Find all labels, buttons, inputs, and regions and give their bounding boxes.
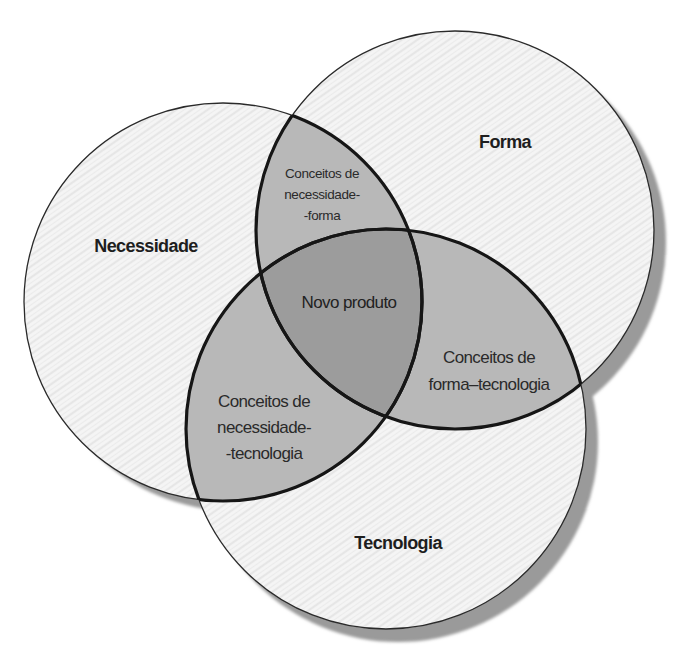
venn-diagram: Necessidade Forma Tecnologia Conceitos d… xyxy=(0,0,688,661)
label-necessidade-tecnologia: Conceitos de necessidade- -tecnologia xyxy=(217,392,311,463)
svg-text:Conceitos de: Conceitos de xyxy=(218,392,310,411)
svg-text:forma–tecnologia: forma–tecnologia xyxy=(429,375,551,394)
svg-text:-forma: -forma xyxy=(304,208,341,223)
label-forma: Forma xyxy=(479,132,533,152)
svg-text:-tecnologia: -tecnologia xyxy=(226,444,304,463)
svg-text:necessidade-: necessidade- xyxy=(284,187,360,202)
label-tecnologia: Tecnologia xyxy=(354,533,443,553)
svg-text:necessidade-: necessidade- xyxy=(217,418,311,437)
label-necessidade: Necessidade xyxy=(94,236,198,256)
label-novo-produto: Novo produto xyxy=(302,293,397,312)
svg-text:Conceitos de: Conceitos de xyxy=(443,348,535,367)
svg-text:Conceitos de: Conceitos de xyxy=(285,166,359,181)
